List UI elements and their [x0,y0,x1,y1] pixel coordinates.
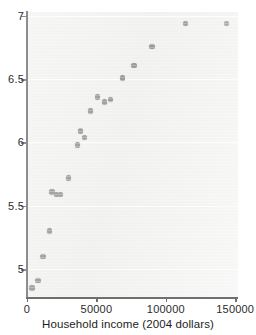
data-point [29,285,34,290]
data-point [35,278,40,283]
data-point [224,21,229,26]
plot-area [27,12,238,297]
gridline-y-4 [27,16,238,17]
data-point [95,94,100,99]
y-tick-label-2: 6 [18,136,24,148]
data-point [40,254,45,259]
data-point [78,128,83,133]
data-point [47,228,52,233]
gridline-y-1 [27,206,238,207]
data-point [149,44,154,49]
data-point [183,21,188,26]
x-tick-label-3: 150000 [216,303,254,315]
y-tick-label-3: 6.5 [8,73,24,85]
data-point [131,63,136,68]
y-tick-label-0: 5 [18,263,24,275]
x-tick-label-0: 0 [24,303,30,315]
data-point [108,97,113,102]
data-point [58,192,63,197]
y-tick-label-4: 7 [18,10,24,22]
x-tick-1 [96,297,97,302]
paper-texture [27,12,238,297]
x-tick-3 [235,297,236,302]
gridline-y-0 [27,269,238,270]
x-axis-line [26,297,238,299]
x-axis-title: Household income (2004 dollars) [0,318,256,330]
x-tick-label-2: 100000 [147,303,185,315]
x-tick-2 [166,297,167,302]
data-point [82,135,87,140]
data-point [102,99,107,104]
data-point [75,142,80,147]
y-tick-label-1: 5.5 [8,200,24,212]
data-point [88,108,93,113]
gridline-y-2 [27,142,238,143]
x-tick-label-1: 50000 [81,303,113,315]
y-axis-line [26,11,28,298]
data-point [66,175,71,180]
paper-wash [27,12,238,297]
data-point [120,75,125,80]
gridline-y-3 [27,79,238,80]
scatter-plot-figure: 55.566.57 050000100000150000 Household i… [0,0,256,335]
x-tick-0 [27,297,28,302]
